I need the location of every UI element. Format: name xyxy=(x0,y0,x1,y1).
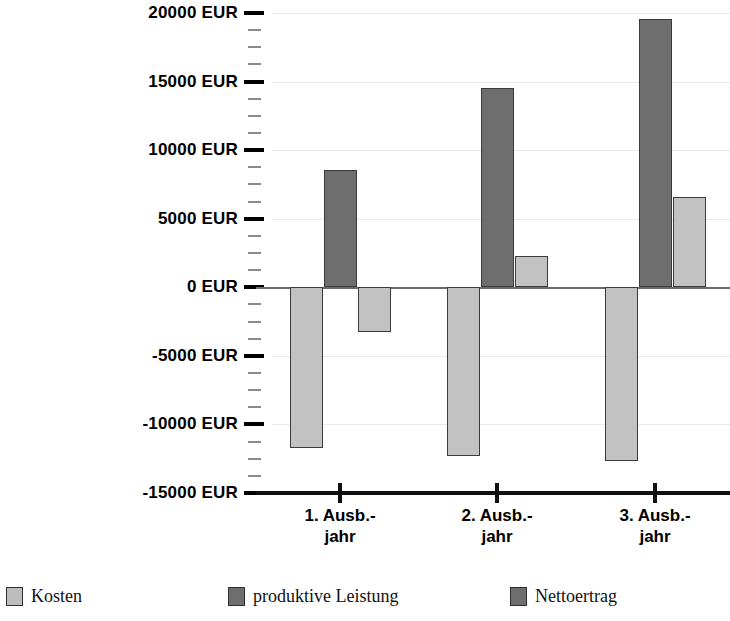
y-axis-tick-minor xyxy=(248,201,261,203)
y-axis-tick-minor xyxy=(248,458,261,460)
zero-line xyxy=(256,287,730,289)
y-axis-tick-minor xyxy=(248,475,261,477)
bar xyxy=(447,287,480,456)
plot-area xyxy=(272,0,730,494)
x-axis-tick-label: 1. Ausb.- jahr xyxy=(304,505,375,547)
y-axis-tick-minor xyxy=(248,63,261,65)
gridline xyxy=(272,356,730,357)
y-axis-tick-minor xyxy=(248,166,261,168)
legend-label: produktive Leistung xyxy=(253,586,398,607)
y-axis-tick-minor xyxy=(248,252,261,254)
y-axis-tick-label: 5000 EUR xyxy=(158,209,238,229)
x-axis-tick xyxy=(495,483,499,503)
y-axis-tick-minor xyxy=(248,406,261,408)
bar xyxy=(324,170,357,287)
y-axis-tick-minor xyxy=(248,372,261,374)
bar xyxy=(605,287,638,461)
legend-label: Kosten xyxy=(31,586,82,607)
bar xyxy=(358,287,391,332)
y-axis: 20000 EUR15000 EUR10000 EUR5000 EUR0 EUR… xyxy=(0,0,272,500)
x-axis-tick-label: 2. Ausb.- jahr xyxy=(461,505,532,547)
y-axis-tick-major xyxy=(244,354,264,358)
bar xyxy=(290,287,323,447)
y-axis-tick-label: -5000 EUR xyxy=(152,346,238,366)
y-axis-tick-label: 20000 EUR xyxy=(148,3,238,23)
y-axis-tick-minor xyxy=(248,46,261,48)
x-axis-line xyxy=(256,491,730,495)
y-axis-tick-major xyxy=(244,217,264,221)
legend-swatch-icon xyxy=(510,587,527,606)
x-axis-tick xyxy=(653,483,657,503)
y-axis-tick-minor xyxy=(248,303,261,305)
y-axis-tick-minor xyxy=(248,132,261,134)
x-axis-tick-label: 3. Ausb.- jahr xyxy=(619,505,690,547)
y-axis-tick-minor xyxy=(248,389,261,391)
x-axis-tick xyxy=(338,483,342,503)
legend-item[interactable]: Nettoertrag xyxy=(510,586,617,607)
legend-item[interactable]: produktive Leistung xyxy=(228,586,398,607)
legend-swatch-icon xyxy=(6,587,23,606)
y-axis-tick-minor xyxy=(248,183,261,185)
bar xyxy=(673,197,706,287)
y-axis-tick-minor xyxy=(248,29,261,31)
y-axis-tick-minor xyxy=(248,235,261,237)
y-axis-tick-minor xyxy=(248,441,261,443)
chart-legend: Kostenproduktive LeistungNettoertrag xyxy=(0,578,730,618)
y-axis-tick-major xyxy=(244,422,264,426)
bar xyxy=(639,19,672,287)
y-axis-tick-minor xyxy=(248,338,261,340)
y-axis-tick-major xyxy=(244,80,264,84)
y-axis-tick-minor xyxy=(248,321,261,323)
legend-swatch-icon xyxy=(228,587,245,606)
y-axis-tick-major xyxy=(244,11,264,15)
y-axis-tick-major xyxy=(244,148,264,152)
y-axis-tick-minor xyxy=(248,269,261,271)
y-axis-tick-label: -15000 EUR xyxy=(142,483,238,503)
bar xyxy=(481,88,514,287)
y-axis-tick-label: 15000 EUR xyxy=(148,72,238,92)
y-axis-tick-minor xyxy=(248,115,261,117)
y-axis-tick-minor xyxy=(248,98,261,100)
y-axis-tick-label: 0 EUR xyxy=(187,277,238,297)
bar xyxy=(515,256,548,288)
y-axis-tick-label: 10000 EUR xyxy=(148,140,238,160)
legend-label: Nettoertrag xyxy=(535,586,617,607)
y-axis-tick-label: -10000 EUR xyxy=(142,414,238,434)
gridline xyxy=(272,13,730,14)
legend-item[interactable]: Kosten xyxy=(6,586,82,607)
gridline xyxy=(272,424,730,425)
bar-chart: 20000 EUR15000 EUR10000 EUR5000 EUR0 EUR… xyxy=(0,0,730,621)
